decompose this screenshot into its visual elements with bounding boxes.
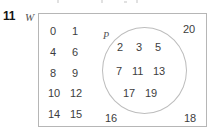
question-number: 11 — [3, 9, 15, 23]
element-inside: 5 — [155, 42, 161, 53]
universal-set-label: W — [25, 11, 34, 23]
element-inside: 19 — [145, 88, 157, 99]
element-outside: 10 — [48, 88, 60, 99]
scan-artifact — [124, 1, 127, 3]
element-inside: 11 — [132, 66, 143, 77]
venn-diagram-figure: 11 W P 0 1 4 6 8 9 10 12 14 15 20 16 18 … — [0, 0, 218, 138]
element-inside: 3 — [136, 42, 142, 53]
element-outside: 15 — [70, 109, 82, 120]
element-outside: 8 — [50, 68, 56, 79]
element-outside: 16 — [105, 113, 117, 124]
element-outside: 14 — [48, 109, 60, 120]
element-inside: 7 — [116, 66, 122, 77]
element-inside: 2 — [117, 42, 123, 53]
set-p-circle — [102, 27, 187, 114]
element-inside: 13 — [153, 66, 165, 77]
set-p-label: P — [103, 30, 109, 41]
element-outside: 9 — [72, 68, 78, 79]
element-inside: 17 — [123, 88, 135, 99]
scan-artifact — [136, 0, 138, 3]
element-outside: 12 — [70, 88, 82, 99]
element-outside: 4 — [50, 47, 56, 58]
element-outside: 0 — [50, 26, 56, 37]
element-outside: 1 — [72, 26, 78, 37]
scan-artifact — [101, 0, 103, 3]
element-outside: 6 — [72, 47, 78, 58]
element-outside: 20 — [183, 24, 195, 35]
element-outside: 18 — [184, 113, 196, 124]
scan-artifact — [57, 0, 59, 3]
